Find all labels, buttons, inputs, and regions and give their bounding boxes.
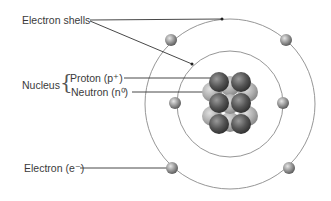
proton (231, 72, 251, 92)
proton-label: Proton (p⁺) (70, 73, 123, 84)
electron (280, 34, 292, 46)
nucleus (202, 72, 258, 134)
proton (209, 93, 229, 113)
nucleus-label: Nucleus (22, 80, 60, 91)
proton (231, 114, 251, 134)
proton (209, 72, 229, 92)
electron (166, 162, 178, 174)
neutron-label: Neutron (n⁰) (71, 87, 128, 98)
proton (209, 114, 229, 134)
electron (169, 97, 181, 109)
electron-label: Electron (e⁻) (24, 163, 84, 174)
electron (277, 97, 289, 109)
electron-shells-label: Electron shells (22, 15, 90, 26)
electron (283, 162, 295, 174)
inner-shell-pointer-dot (191, 63, 194, 66)
outer-shell-pointer-dot (221, 18, 224, 21)
electron (165, 34, 177, 46)
proton (231, 93, 251, 113)
